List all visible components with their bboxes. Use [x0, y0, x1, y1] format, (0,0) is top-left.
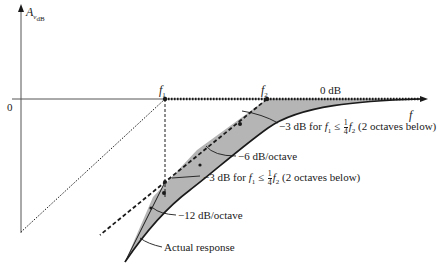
upper-3db-prefix: −3 dB for [279, 120, 325, 132]
lower-3db-suffix: (2 octaves below) [279, 171, 360, 183]
combined-asymptote-steep [125, 182, 165, 262]
f2-label: f2 [261, 84, 268, 99]
leader-actual-response [140, 238, 162, 247]
upper-3db-annotation: −3 dB for f1 ≤ 14f2 (2 octaves below) [279, 119, 436, 136]
f2-label-sub: 2 [264, 91, 268, 99]
slope12-point [149, 206, 152, 209]
lower-3db-fraction: 14 [268, 170, 272, 187]
f1-label-sub: 1 [162, 91, 166, 99]
upper-3db-fraction: 14 [344, 119, 348, 136]
upper-3db-frac-den: 4 [344, 128, 348, 136]
frequency-response-diagram [0, 0, 442, 272]
upper-3db-suffix: (2 octaves below) [355, 120, 436, 132]
slope-12db-label: −12 dB/octave [178, 210, 243, 221]
upper-3db-le: ≤ [331, 120, 343, 132]
lower-3db-annotation: −3 dB for f1 ≤ 14f2 (2 octaves below) [203, 170, 360, 187]
y-axis-arrow-icon [18, 4, 24, 12]
lower-3db-prefix: −3 dB for [203, 171, 249, 183]
minus3db-lower-point [162, 191, 166, 195]
minus3db-upper-point [238, 122, 242, 126]
slope-6db-label: −6 dB/octave [238, 151, 297, 162]
lower-3db-le: ≤ [255, 171, 267, 183]
lower-3db-frac-den: 4 [268, 179, 272, 187]
y-axis-label: AvdB [26, 6, 45, 24]
zero-db-label: 0 dB [320, 85, 341, 96]
y-axis-label-subsub: dB [36, 16, 44, 24]
f1-asymptote-slope [21, 99, 165, 232]
x-axis-arrow-icon [420, 96, 428, 102]
f1-label: f1 [159, 84, 166, 99]
slope6-point [198, 163, 201, 166]
f1-intersect-point [163, 180, 167, 184]
actual-response-label: Actual response [164, 242, 235, 253]
origin-label: 0 [7, 102, 13, 113]
